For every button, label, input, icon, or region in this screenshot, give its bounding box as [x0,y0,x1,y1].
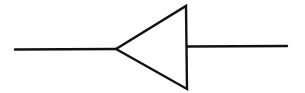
right-lead-wire [187,46,287,47]
amplifier-symbol [0,0,305,93]
diagram-canvas [0,0,305,93]
left-lead-wire [15,49,116,50]
amplifier-triangle [116,6,187,89]
